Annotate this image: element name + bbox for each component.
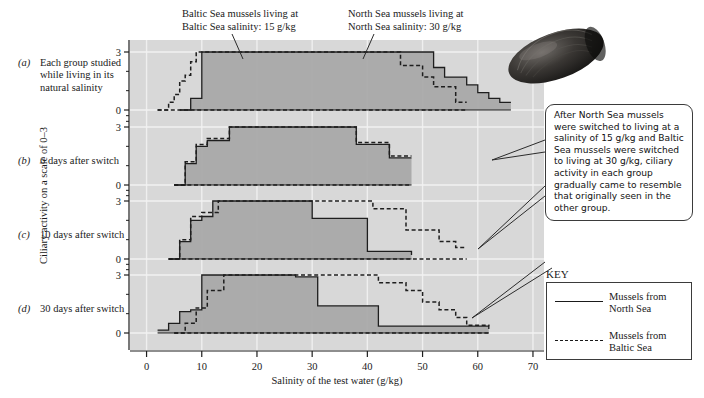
x-tick-label: 40 [362,361,373,372]
y-tick-label: 0 [116,328,121,339]
key-entry-north-sea: Mussels from North Sea [547,283,691,322]
mussel-photo-icon [497,18,615,94]
key-line-dashed-icon [555,340,603,341]
key-label-baltic-sea: Mussels from Baltic Sea [609,330,689,355]
x-tick-label: 10 [197,361,208,372]
y-tick-label: 3 [116,122,121,133]
x-tick-label: 20 [252,361,263,372]
key-title: KEY [546,268,569,280]
x-tick-label: 30 [307,361,318,372]
y-tick-label: 3 [116,47,121,58]
figure-root: Baltic Sea mussels living at Baltic Sea … [0,0,704,398]
y-tick-label: 3 [116,196,121,207]
key-label-north-sea: Mussels from North Sea [609,291,689,316]
y-tick-label: 0 [116,105,121,116]
y-tick-label: 0 [116,180,121,191]
x-tick-label: 0 [144,361,149,372]
key-box: Mussels from North Sea Mussels from Balt… [546,282,692,360]
key-entry-baltic-sea: Mussels from Baltic Sea [547,322,691,361]
y-tick-label: 3 [116,270,121,281]
y-tick-label: 0 [116,254,121,265]
x-tick-label: 70 [528,361,539,372]
x-tick-label: 50 [417,361,428,372]
callout-box: After North Sea mussels were switched to… [545,104,693,221]
key-line-solid-icon [555,301,603,302]
x-tick-label: 60 [473,361,484,372]
